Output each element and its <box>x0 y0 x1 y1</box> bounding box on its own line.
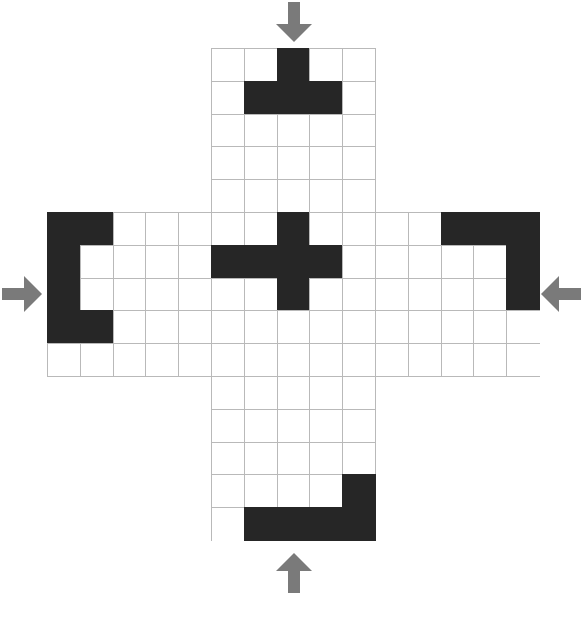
grid-cell-empty[interactable] <box>342 81 376 115</box>
grid-cell-empty[interactable] <box>309 310 343 344</box>
grid-cell-empty[interactable] <box>178 212 212 246</box>
grid-cell-empty[interactable] <box>473 343 507 377</box>
grid-cell-empty[interactable] <box>375 343 409 377</box>
grid-cell-empty[interactable] <box>244 212 278 246</box>
grid-cell-empty[interactable] <box>375 278 409 312</box>
grid-cell-filled[interactable] <box>47 278 81 312</box>
grid-cell-empty[interactable] <box>211 376 245 410</box>
grid-cell-empty[interactable] <box>145 343 179 377</box>
grid-cell-empty[interactable] <box>211 507 245 541</box>
grid-cell-empty[interactable] <box>342 376 376 410</box>
grid-cell-empty[interactable] <box>244 343 278 377</box>
grid-cell-empty[interactable] <box>244 278 278 312</box>
grid-cell-empty[interactable] <box>277 114 311 148</box>
grid-cell-filled[interactable] <box>277 48 311 82</box>
grid-cell-filled[interactable] <box>277 278 311 312</box>
grid-cell-empty[interactable] <box>375 310 409 344</box>
grid-cell-filled[interactable] <box>342 474 376 508</box>
grid-cell-filled[interactable] <box>506 245 540 279</box>
grid-cell-empty[interactable] <box>113 343 147 377</box>
grid-cell-empty[interactable] <box>342 409 376 443</box>
grid-cell-empty[interactable] <box>309 442 343 476</box>
grid-cell-empty[interactable] <box>277 179 311 213</box>
grid-cell-empty[interactable] <box>342 146 376 180</box>
grid-cell-filled[interactable] <box>342 507 376 541</box>
grid-cell-empty[interactable] <box>342 310 376 344</box>
grid-cell-filled[interactable] <box>473 212 507 246</box>
grid-cell-empty[interactable] <box>441 310 475 344</box>
grid-cell-empty[interactable] <box>506 310 540 344</box>
grid-cell-empty[interactable] <box>309 474 343 508</box>
grid-cell-empty[interactable] <box>145 212 179 246</box>
puzzle-grid[interactable] <box>0 0 583 623</box>
grid-cell-empty[interactable] <box>211 474 245 508</box>
grid-cell-empty[interactable] <box>211 278 245 312</box>
grid-cell-empty[interactable] <box>211 48 245 82</box>
grid-cell-filled[interactable] <box>309 245 343 279</box>
grid-cell-filled[interactable] <box>309 507 343 541</box>
grid-cell-empty[interactable] <box>375 212 409 246</box>
grid-cell-empty[interactable] <box>178 278 212 312</box>
grid-cell-empty[interactable] <box>408 343 442 377</box>
grid-cell-empty[interactable] <box>342 48 376 82</box>
grid-cell-empty[interactable] <box>211 212 245 246</box>
grid-cell-empty[interactable] <box>178 245 212 279</box>
grid-cell-filled[interactable] <box>277 245 311 279</box>
grid-cell-empty[interactable] <box>244 179 278 213</box>
grid-cell-filled[interactable] <box>47 245 81 279</box>
grid-cell-empty[interactable] <box>211 442 245 476</box>
grid-cell-filled[interactable] <box>47 310 81 344</box>
grid-cell-empty[interactable] <box>309 146 343 180</box>
grid-cell-empty[interactable] <box>277 442 311 476</box>
grid-cell-empty[interactable] <box>211 81 245 115</box>
grid-cell-empty[interactable] <box>211 310 245 344</box>
grid-cell-empty[interactable] <box>342 245 376 279</box>
grid-cell-empty[interactable] <box>145 245 179 279</box>
grid-cell-empty[interactable] <box>342 343 376 377</box>
grid-cell-filled[interactable] <box>277 81 311 115</box>
grid-cell-empty[interactable] <box>277 376 311 410</box>
grid-cell-empty[interactable] <box>277 409 311 443</box>
grid-cell-empty[interactable] <box>244 409 278 443</box>
grid-cell-empty[interactable] <box>342 179 376 213</box>
grid-cell-empty[interactable] <box>113 310 147 344</box>
grid-cell-empty[interactable] <box>309 278 343 312</box>
grid-cell-filled[interactable] <box>309 81 343 115</box>
grid-cell-filled[interactable] <box>506 212 540 246</box>
grid-cell-empty[interactable] <box>277 474 311 508</box>
grid-cell-empty[interactable] <box>309 212 343 246</box>
grid-cell-empty[interactable] <box>473 245 507 279</box>
grid-cell-empty[interactable] <box>47 343 81 377</box>
grid-cell-empty[interactable] <box>113 245 147 279</box>
grid-cell-empty[interactable] <box>178 310 212 344</box>
grid-cell-filled[interactable] <box>80 212 114 246</box>
grid-cell-empty[interactable] <box>375 245 409 279</box>
grid-cell-filled[interactable] <box>80 310 114 344</box>
grid-cell-empty[interactable] <box>211 409 245 443</box>
grid-cell-empty[interactable] <box>408 310 442 344</box>
grid-cell-empty[interactable] <box>244 376 278 410</box>
grid-cell-empty[interactable] <box>309 376 343 410</box>
grid-cell-empty[interactable] <box>342 212 376 246</box>
grid-cell-filled[interactable] <box>277 507 311 541</box>
grid-cell-empty[interactable] <box>473 278 507 312</box>
grid-cell-filled[interactable] <box>47 212 81 246</box>
grid-cell-empty[interactable] <box>145 310 179 344</box>
grid-cell-empty[interactable] <box>408 212 442 246</box>
grid-cell-empty[interactable] <box>277 310 311 344</box>
grid-cell-empty[interactable] <box>473 310 507 344</box>
grid-cell-empty[interactable] <box>408 278 442 312</box>
grid-cell-empty[interactable] <box>309 343 343 377</box>
grid-cell-empty[interactable] <box>80 278 114 312</box>
grid-cell-empty[interactable] <box>277 146 311 180</box>
grid-cell-empty[interactable] <box>441 245 475 279</box>
grid-cell-filled[interactable] <box>244 81 278 115</box>
grid-cell-empty[interactable] <box>113 278 147 312</box>
grid-cell-empty[interactable] <box>80 245 114 279</box>
grid-cell-empty[interactable] <box>309 114 343 148</box>
grid-cell-empty[interactable] <box>145 278 179 312</box>
grid-cell-empty[interactable] <box>342 278 376 312</box>
grid-cell-empty[interactable] <box>244 48 278 82</box>
grid-cell-filled[interactable] <box>211 245 245 279</box>
grid-cell-filled[interactable] <box>506 278 540 312</box>
